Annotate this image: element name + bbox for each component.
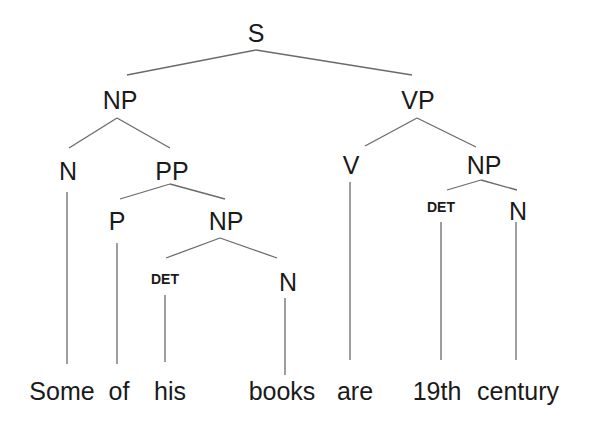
edge-pp-p <box>120 184 170 199</box>
edge-pp-np2 <box>170 184 225 199</box>
edge-np1-n1 <box>69 118 117 148</box>
tree-svg: SNPVPNPPVNPPNPDETNDETN Someofhisbooksare… <box>0 0 591 430</box>
word-are: are <box>337 377 373 405</box>
node-det2: DET <box>427 199 455 215</box>
node-np3: NP <box>467 151 502 179</box>
node-np2: NP <box>209 207 244 235</box>
word-books: books <box>249 377 316 405</box>
edge-np2-det1 <box>166 238 220 258</box>
node-n2: N <box>279 268 297 296</box>
node-vp: VP <box>401 86 434 114</box>
edge-vp-v <box>365 118 417 146</box>
node-pp: PP <box>155 157 188 185</box>
node-p: P <box>109 207 126 235</box>
word-19th: 19th <box>413 377 462 405</box>
node-np1: NP <box>103 86 138 114</box>
word-some: Some <box>29 377 94 405</box>
edge-vp-np3 <box>417 118 476 147</box>
word-century: century <box>477 377 559 405</box>
word-of: of <box>109 377 130 405</box>
syntax-tree-diagram: SNPVPNPPVNPPNPDETNDETN Someofhisbooksare… <box>0 0 591 430</box>
tree-nodes: SNPVPNPPVNPPNPDETNDETN <box>59 19 527 296</box>
edge-np1-pp <box>117 118 170 148</box>
edge-s-vp <box>256 50 412 75</box>
edge-np3-n3 <box>481 180 517 190</box>
node-s: S <box>248 19 265 47</box>
sentence-words: Someofhisbooksare19thcentury <box>29 377 559 405</box>
node-n3: N <box>509 197 527 225</box>
node-det1: DET <box>151 271 179 287</box>
edge-s-np1 <box>127 50 256 75</box>
word-his: his <box>154 377 186 405</box>
edge-np2-n2 <box>220 238 277 258</box>
node-v: V <box>343 151 360 179</box>
edge-np3-det2 <box>447 180 481 190</box>
node-n1: N <box>59 157 77 185</box>
